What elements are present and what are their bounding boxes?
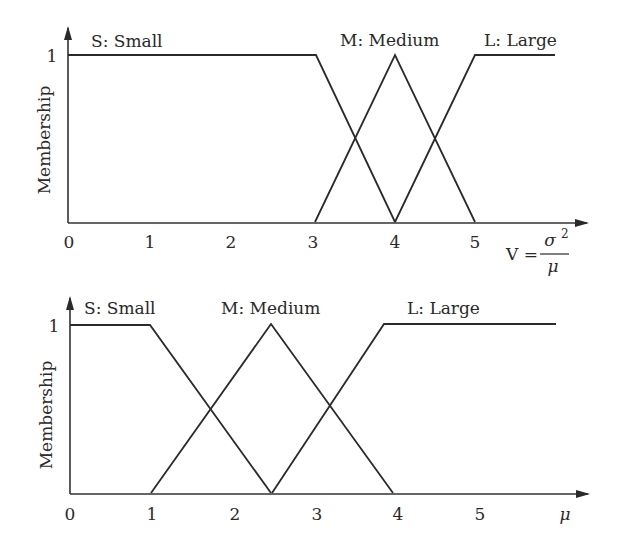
top-ytick-1: 1 — [47, 46, 58, 66]
top-curve-small — [68, 55, 395, 222]
bottom-xtick-3: 3 — [312, 504, 323, 524]
top-x-label: V = σ 2 μ — [505, 227, 569, 276]
bottom-label-large: L: Large — [407, 298, 480, 318]
top-label-medium: M: Medium — [340, 30, 439, 50]
top-chart: S: Small M: Medium L: Large 1 Membership… — [34, 28, 587, 276]
bottom-label-small: S: Small — [84, 298, 156, 318]
top-x-label-denominator: μ — [547, 256, 558, 276]
top-xtick-4: 4 — [390, 232, 401, 252]
bottom-curve-small — [70, 325, 271, 493]
bottom-ytick-1: 1 — [49, 316, 60, 336]
bottom-x-label: μ — [559, 504, 570, 524]
bottom-chart: S: Small M: Medium L: Large 1 Membership… — [36, 298, 588, 524]
top-xtick-5: 5 — [470, 232, 481, 252]
top-y-label: Membership — [34, 86, 54, 195]
top-x-label-numerator: σ — [544, 230, 556, 250]
bottom-xtick-1: 1 — [147, 504, 158, 524]
top-xtick-2: 2 — [226, 232, 237, 252]
bottom-xtick-2: 2 — [230, 504, 241, 524]
bottom-xtick-5: 5 — [475, 504, 486, 524]
top-curve-medium — [315, 55, 475, 222]
bottom-xtick-4: 4 — [393, 504, 404, 524]
bottom-y-label: Membership — [36, 361, 56, 470]
top-xtick-3: 3 — [308, 232, 319, 252]
bottom-label-medium: M: Medium — [221, 298, 320, 318]
bottom-xtick-0: 0 — [65, 504, 76, 524]
top-xtick-1: 1 — [145, 232, 156, 252]
top-x-label-prefix: V = — [505, 244, 538, 264]
bottom-curve-large — [272, 324, 556, 493]
membership-function-figure: S: Small M: Medium L: Large 1 Membership… — [0, 0, 631, 552]
top-curve-large — [395, 55, 555, 222]
top-label-large: L: Large — [484, 30, 557, 50]
top-x-label-exponent: 2 — [561, 227, 569, 241]
bottom-curve-medium — [151, 324, 393, 493]
top-xtick-0: 0 — [64, 232, 75, 252]
top-label-small: S: Small — [91, 31, 163, 51]
